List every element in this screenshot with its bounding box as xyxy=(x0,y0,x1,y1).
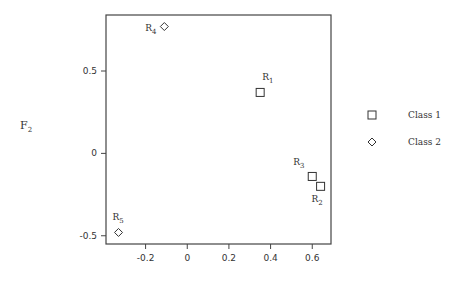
y-tick-label: -0.5 xyxy=(79,231,97,241)
point-label: R4 xyxy=(145,23,157,36)
legend-label-class-2: Class 2 xyxy=(408,137,441,147)
x-tick-label: 0.2 xyxy=(222,253,236,263)
diamond-marker-icon xyxy=(115,228,123,236)
square-marker-icon xyxy=(317,182,325,190)
square-marker-icon xyxy=(368,111,376,119)
x-axis: -0.200.20.40.6 xyxy=(137,244,320,263)
point-label: R1 xyxy=(262,72,273,85)
x-tick-label: 0.4 xyxy=(263,253,278,263)
point-label: R3 xyxy=(293,157,304,170)
point-label: R5 xyxy=(113,212,124,225)
scatter-chart: -0.200.20.40.6 -0.500.5 R1R2R3R4R5 F2 Cl… xyxy=(0,0,463,284)
legend-label-class-1: Class 1 xyxy=(408,110,441,120)
plot-frame xyxy=(106,15,331,244)
y-tick-label: 0.5 xyxy=(83,66,97,76)
data-points: R1R2R3R4R5 xyxy=(113,23,325,237)
square-marker-icon xyxy=(256,88,264,96)
x-tick-label: -0.2 xyxy=(137,253,155,263)
diamond-marker-icon xyxy=(160,23,168,31)
x-tick-label: 0 xyxy=(184,253,190,263)
point-label: R2 xyxy=(312,194,323,207)
y-axis: -0.500.5 xyxy=(79,66,106,241)
y-tick-label: 0 xyxy=(91,148,97,158)
square-marker-icon xyxy=(308,172,316,180)
legend: Class 1 Class 2 xyxy=(368,110,441,147)
x-tick-label: 0.6 xyxy=(305,253,320,263)
diamond-marker-icon xyxy=(368,138,376,146)
y-axis-title: F2 xyxy=(20,119,32,134)
